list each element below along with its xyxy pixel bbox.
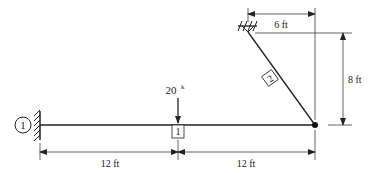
dimension-left-12ft: 12 ft xyxy=(40,140,178,169)
joint-node xyxy=(312,122,318,128)
dimension-6ft: 6 ft xyxy=(248,8,315,120)
svg-text:12 ft: 12 ft xyxy=(237,158,256,169)
load-unit: k xyxy=(181,83,185,91)
svg-text:1: 1 xyxy=(176,126,181,137)
point-load: 20 k xyxy=(166,83,186,123)
load-value: 20 xyxy=(166,84,178,96)
fixed-support-icon xyxy=(34,110,40,141)
element-1-label: 1 xyxy=(172,125,184,138)
svg-text:12 ft: 12 ft xyxy=(101,158,120,169)
structural-diagram: 1 1 20 k 2 xyxy=(0,0,375,173)
node-1-label: 1 xyxy=(15,117,31,133)
svg-text:6 ft: 6 ft xyxy=(274,19,288,30)
member-element-2 xyxy=(248,32,315,125)
svg-text:8 ft: 8 ft xyxy=(348,74,362,85)
svg-text:1: 1 xyxy=(20,119,26,131)
pin-support-icon xyxy=(238,21,257,32)
element-2-label: 2 xyxy=(262,70,279,87)
dimension-right-12ft: 12 ft xyxy=(178,130,315,169)
